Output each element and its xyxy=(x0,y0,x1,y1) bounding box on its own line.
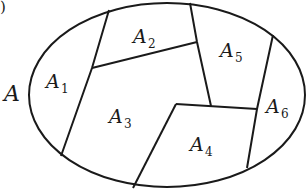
svg-text:5: 5 xyxy=(235,51,243,65)
svg-text:A: A xyxy=(218,39,234,61)
region-a2-label: A 2 xyxy=(131,25,156,51)
svg-text:A: A xyxy=(188,133,204,155)
boundary-a4-left xyxy=(133,104,176,188)
svg-text:2: 2 xyxy=(148,37,156,51)
svg-text:3: 3 xyxy=(124,117,132,131)
boundary-a4-top xyxy=(176,104,257,109)
partition-diagram: ) A A 1 A 2 A 3 A 4 A 5 A 6 xyxy=(0,0,307,190)
set-label: A xyxy=(2,81,20,106)
region-a4-label: A 4 xyxy=(188,133,213,159)
svg-text:A: A xyxy=(44,70,60,92)
corner-mark: ) xyxy=(0,0,6,16)
svg-text:A: A xyxy=(107,105,123,127)
region-a3-label: A 3 xyxy=(107,105,132,131)
svg-text:6: 6 xyxy=(281,107,289,121)
set-boundary-ellipse xyxy=(29,3,305,187)
partition-lines xyxy=(61,3,273,188)
region-a1-label: A 1 xyxy=(44,70,69,96)
svg-text:4: 4 xyxy=(205,145,213,159)
svg-text:1: 1 xyxy=(61,82,69,96)
svg-text:A: A xyxy=(264,95,280,117)
region-a6-label: A 6 xyxy=(264,95,289,121)
region-a5-label: A 5 xyxy=(218,39,243,65)
svg-text:A: A xyxy=(131,25,147,47)
boundary-a5-left xyxy=(190,3,211,106)
